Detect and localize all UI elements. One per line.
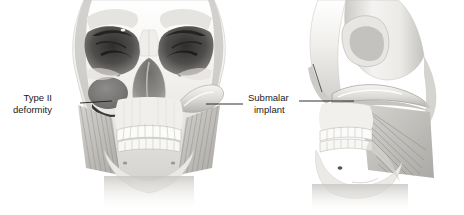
right-mental-foramen: [171, 161, 175, 164]
lateral-mental-foramen: [338, 166, 343, 170]
label-type-ii-deformity-line2: deformity: [13, 104, 52, 115]
skull-illustration-svg: Type II deformity Submalar implant: [0, 0, 464, 215]
label-submalar-implant-line2: implant: [254, 104, 285, 115]
mandible-fade: [104, 176, 194, 212]
left-supraorbital-notch: [121, 28, 126, 31]
label-submalar-implant-line1: Submalar: [248, 92, 289, 103]
medical-illustration-figure: Type II deformity Submalar implant: [0, 0, 464, 215]
left-mental-foramen: [123, 161, 127, 164]
lateral-mandible-fade: [312, 184, 408, 214]
label-type-ii-deformity-line1: Type II: [23, 92, 52, 103]
